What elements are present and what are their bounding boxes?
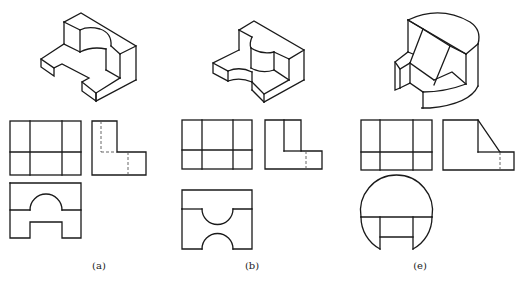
caption-e: (e) bbox=[413, 260, 427, 271]
panel-b-isometric bbox=[213, 21, 304, 102]
panel-e-isometric bbox=[395, 13, 479, 108]
caption-a: (a) bbox=[92, 260, 106, 271]
panel-e-side-view bbox=[443, 120, 514, 170]
panel-a-front-view bbox=[10, 121, 81, 175]
panel-a bbox=[10, 13, 146, 238]
panel-b-front-view bbox=[182, 120, 252, 169]
panel-b-top-view bbox=[182, 190, 252, 249]
panel-b-side-view bbox=[265, 120, 322, 169]
panel-a-top-view bbox=[10, 183, 81, 238]
caption-b: (b) bbox=[245, 260, 259, 271]
panel-e-top-view bbox=[361, 175, 433, 249]
panel-e-front-view bbox=[361, 120, 432, 170]
panel-e bbox=[361, 13, 515, 249]
three-view-drawing-figure: (a) (b) (e) bbox=[0, 0, 522, 281]
panel-b bbox=[182, 21, 322, 249]
drawing-canvas bbox=[0, 0, 522, 281]
panel-a-isometric bbox=[41, 13, 136, 101]
panel-a-side-view bbox=[92, 121, 146, 175]
